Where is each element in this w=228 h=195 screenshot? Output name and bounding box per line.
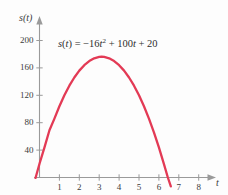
y-tick-label: 40 <box>4 146 34 155</box>
y-tick-label: 200 <box>4 36 34 45</box>
y-tick-label: 160 <box>4 63 34 72</box>
x-tick-label: 8 <box>189 183 209 192</box>
x-tick-label: 4 <box>109 183 129 192</box>
x-axis-label: t <box>216 178 219 188</box>
x-tick-label: 6 <box>149 183 169 192</box>
x-axis-arrow-icon <box>208 174 217 180</box>
equation-coef-quadratic: 16 <box>89 38 100 49</box>
x-tick-label: 3 <box>89 183 109 192</box>
equation-paren-close: ) <box>69 38 73 49</box>
y-axis-label: s(t) <box>19 13 32 23</box>
chart-figure: s(t) t s(t) = −16t2 + 100t + 20 40801201… <box>0 0 228 195</box>
y-axis-arrow-icon <box>36 16 42 25</box>
y-tick-label: 80 <box>4 118 34 127</box>
x-axis <box>34 174 216 180</box>
parabola-curve <box>36 57 171 187</box>
equation-plus-2: + <box>139 38 145 49</box>
equation-coef-linear: 100 <box>117 38 133 49</box>
y-tick-label: 120 <box>4 91 34 100</box>
chart-plot-area <box>0 0 228 195</box>
x-tick-label: 7 <box>169 183 189 192</box>
x-tick-label: 5 <box>129 183 149 192</box>
equation-plus-1: + <box>109 38 115 49</box>
equation-constant: 20 <box>147 38 158 49</box>
x-tick-label: 2 <box>69 183 89 192</box>
equation-var-linear: t <box>133 38 136 49</box>
x-tick-label: 1 <box>49 183 69 192</box>
equation-exponent: 2 <box>103 37 107 45</box>
equation-annotation: s(t) = −16t2 + 100t + 20 <box>58 39 158 50</box>
equation-equals: = <box>75 38 81 49</box>
